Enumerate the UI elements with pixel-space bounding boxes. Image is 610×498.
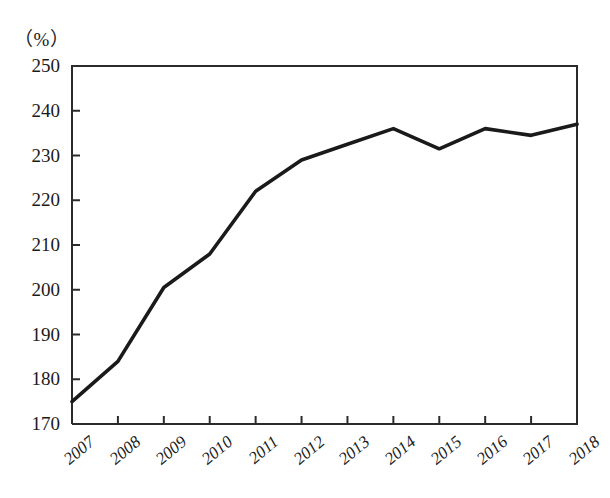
plot-area xyxy=(0,0,610,498)
plot-frame xyxy=(72,66,577,424)
y-axis-ticks xyxy=(72,111,80,380)
data-series-line xyxy=(72,124,577,401)
line-chart: （%） 170180190200210220230240250 20072008… xyxy=(0,0,610,498)
x-axis-ticks xyxy=(118,416,531,424)
axis-lines xyxy=(72,66,577,424)
